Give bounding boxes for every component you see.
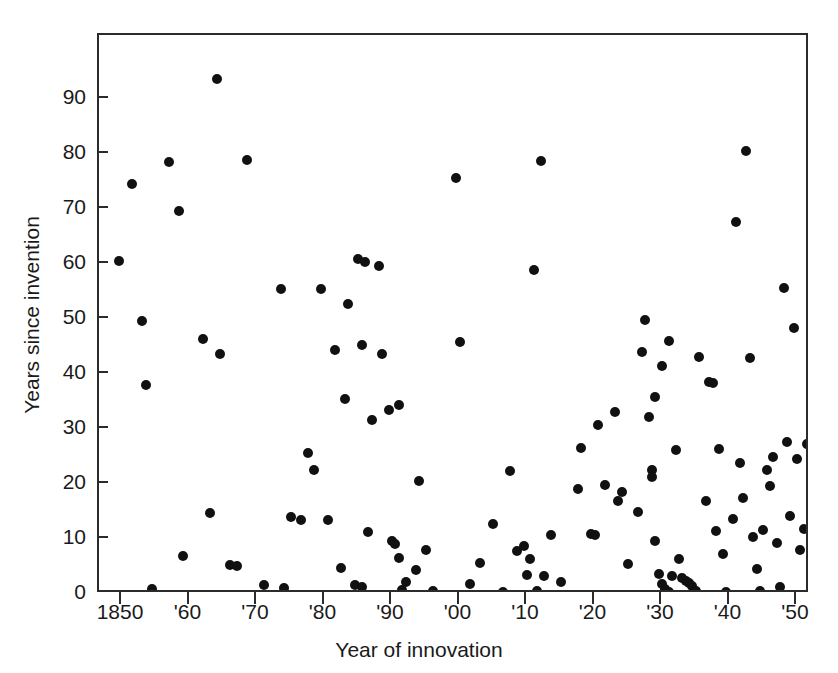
data-point xyxy=(296,515,306,525)
data-point xyxy=(667,571,677,581)
data-point xyxy=(303,448,313,458)
data-point xyxy=(792,454,802,464)
data-point xyxy=(127,179,137,189)
data-point xyxy=(323,515,333,525)
data-point xyxy=(343,299,353,309)
data-point xyxy=(411,565,421,575)
data-point xyxy=(455,337,465,347)
data-point xyxy=(367,415,377,425)
data-point xyxy=(394,400,404,410)
x-axis-tick-label: '20 xyxy=(579,600,606,624)
data-point xyxy=(377,349,387,359)
y-axis-tick xyxy=(97,371,108,373)
y-axis-tick-label: 70 xyxy=(40,196,86,217)
data-point xyxy=(799,524,806,534)
data-point xyxy=(519,541,529,551)
data-point xyxy=(745,353,755,363)
data-point xyxy=(623,559,633,569)
x-axis-tick-label: '60 xyxy=(174,600,201,624)
y-axis-tick xyxy=(97,206,108,208)
data-point xyxy=(650,392,660,402)
data-point xyxy=(164,157,174,167)
x-axis-tick-label: 1850 xyxy=(97,600,144,624)
y-axis-tick-label: 20 xyxy=(40,471,86,492)
data-point xyxy=(205,508,215,518)
plot-frame xyxy=(97,33,808,592)
data-point xyxy=(768,452,778,462)
data-point xyxy=(738,493,748,503)
scatter-plot-figure: Year of innovation Years since invention… xyxy=(0,0,838,673)
y-axis-tick xyxy=(97,426,108,428)
data-point xyxy=(394,553,404,563)
data-point xyxy=(316,284,326,294)
data-point xyxy=(556,577,566,587)
data-point xyxy=(475,558,485,568)
data-point xyxy=(647,472,657,482)
data-point xyxy=(779,283,789,293)
x-axis-tick-label: '30 xyxy=(646,600,673,624)
x-axis-tick-label: '00 xyxy=(444,600,471,624)
data-point xyxy=(775,582,785,590)
data-point xyxy=(357,582,367,590)
data-point xyxy=(644,412,654,422)
data-point xyxy=(735,458,745,468)
y-axis-tick-label: 10 xyxy=(40,526,86,547)
data-point xyxy=(610,407,620,417)
data-point xyxy=(114,256,124,266)
y-axis-tick-label: 40 xyxy=(40,361,86,382)
data-point xyxy=(215,349,225,359)
data-point xyxy=(232,561,242,571)
data-point xyxy=(414,476,424,486)
data-point xyxy=(505,466,515,476)
data-point xyxy=(590,530,600,540)
data-point xyxy=(671,445,681,455)
x-axis-tick-label: '50 xyxy=(781,600,808,624)
data-point xyxy=(539,571,549,581)
data-point xyxy=(421,545,431,555)
data-point xyxy=(762,465,772,475)
data-point xyxy=(498,587,508,590)
data-point xyxy=(600,480,610,490)
data-point xyxy=(374,261,384,271)
x-axis-tick-label: '10 xyxy=(511,600,538,624)
data-point xyxy=(576,443,586,453)
data-point xyxy=(711,526,721,536)
data-point xyxy=(718,549,728,559)
data-point xyxy=(529,265,539,275)
data-point xyxy=(147,584,157,590)
data-point xyxy=(741,146,751,156)
data-point xyxy=(279,583,289,590)
data-point xyxy=(765,481,775,491)
data-point xyxy=(522,570,532,580)
data-point xyxy=(212,74,222,84)
data-point xyxy=(488,519,498,529)
y-axis-tick xyxy=(97,316,108,318)
y-axis-tick xyxy=(97,96,108,98)
data-point xyxy=(242,155,252,165)
data-point xyxy=(536,156,546,166)
data-point xyxy=(617,487,627,497)
data-point xyxy=(708,378,718,388)
x-axis-tick-label: '80 xyxy=(309,600,336,624)
data-point xyxy=(674,554,684,564)
data-point xyxy=(401,577,411,587)
y-axis-tick-label: 80 xyxy=(40,141,86,162)
data-point xyxy=(309,465,319,475)
data-point xyxy=(532,586,542,590)
data-point xyxy=(137,316,147,326)
data-point xyxy=(654,569,664,579)
data-point xyxy=(785,511,795,521)
data-point xyxy=(546,530,556,540)
x-axis-title: Year of innovation xyxy=(0,638,838,662)
data-point xyxy=(721,587,731,590)
data-point xyxy=(748,532,758,542)
data-point xyxy=(637,347,647,357)
plot-data-area xyxy=(99,35,806,590)
data-point xyxy=(141,380,151,390)
data-point xyxy=(198,334,208,344)
x-axis-tick-label: '70 xyxy=(241,600,268,624)
data-point xyxy=(728,514,738,524)
y-axis-tick xyxy=(97,536,108,538)
data-point xyxy=(664,587,674,590)
data-point xyxy=(340,394,350,404)
